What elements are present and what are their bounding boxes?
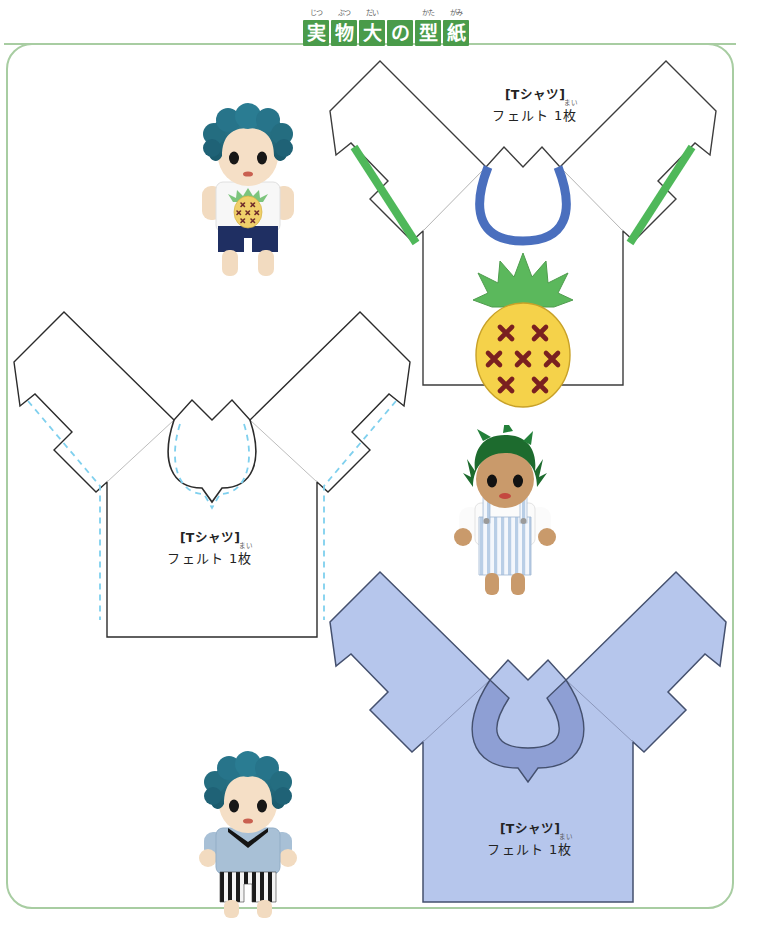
doll2-leg-right: [511, 573, 525, 595]
doll3-leg-right: [257, 900, 272, 918]
title-char-2: だい 大: [359, 20, 385, 46]
title-char-1: ぶつ 物: [331, 20, 357, 46]
doll1-curl-g: [275, 139, 293, 157]
doll2-overalls-body: [479, 517, 531, 575]
furigana-0: じつ: [303, 9, 329, 17]
doll3-mouth: [243, 818, 253, 823]
doll1-leg-left: [222, 250, 238, 276]
doll3-hand-right: [279, 849, 297, 867]
pattern-label-furigana-1: まい: [239, 543, 253, 550]
pattern-label-sub-1: まい フェルト 1枚: [167, 550, 252, 568]
title-rule-right: [468, 43, 736, 45]
doll3-pants: [220, 872, 276, 902]
doll2-hand-left: [454, 528, 472, 546]
doll-photo-striped-overalls: [445, 425, 565, 600]
doll-photo-blue-shirt: [188, 750, 308, 920]
pattern-label-blue: [Tシャツ] まい フェルト 1枚: [455, 820, 605, 860]
title-char-4: かた 型: [415, 20, 441, 46]
pattern-label-title-1: [Tシャツ]: [140, 529, 280, 547]
pattern-label-sub-text-2: フェルト 1枚: [487, 842, 572, 857]
title-char-glyph-2: 大: [363, 22, 382, 44]
pattern-sheet-page: じつ 実 ぶつ 物 だい 大 の かた 型 がみ 紙: [0, 0, 771, 934]
pattern-label-sub-2: まい フェルト 1枚: [487, 841, 572, 859]
title-char-glyph-5: 紙: [447, 22, 466, 44]
doll3-curl-f: [204, 787, 222, 805]
furigana-1: ぶつ: [331, 9, 357, 17]
doll2-mouth: [499, 493, 511, 499]
doll3-leg-left: [224, 900, 239, 918]
title-char-5: がみ 紙: [443, 20, 469, 46]
doll2-hand-right: [538, 528, 556, 546]
page-title-banner: じつ 実 ぶつ 物 だい 大 の かた 型 がみ 紙: [303, 20, 469, 46]
doll1-shorts: [218, 226, 278, 252]
doll1-eye-right: [257, 152, 267, 165]
furigana-4: かた: [415, 9, 441, 17]
doll2-eye-left: [487, 475, 497, 488]
doll3-shirt: [216, 828, 280, 874]
title-char-glyph-0: 実: [307, 22, 326, 44]
pattern-label-furigana-0: まい: [564, 100, 578, 107]
pattern-label-sub-text-0: フェルト 1枚: [492, 108, 577, 123]
pattern-label-sub-text-1: フェルト 1枚: [167, 551, 252, 566]
doll1-leg-right: [258, 250, 274, 276]
doll2-buckle-left: [484, 518, 490, 524]
doll3-hand-left: [199, 849, 217, 867]
doll1-eye-left: [229, 152, 239, 165]
doll2-eye-right: [513, 475, 523, 488]
pattern-label-pineapple: [Tシャツ] まい フェルト 1枚: [470, 86, 600, 126]
furigana-2: だい: [359, 9, 385, 17]
furigana-5: がみ: [443, 9, 469, 17]
doll3-eye-right: [257, 800, 267, 813]
doll-photo-pineapple-tee: [188, 100, 308, 280]
title-char-glyph-1: 物: [335, 22, 354, 44]
doll2-buckle-right: [521, 518, 527, 524]
pattern-label-dashed: [Tシャツ] まい フェルト 1枚: [140, 529, 280, 569]
title-char-glyph-4: 型: [419, 22, 438, 44]
pattern-label-sub-0: まい フェルト 1枚: [492, 107, 577, 125]
title-char-3: の: [387, 20, 413, 46]
doll1-curl-f: [203, 139, 221, 157]
title-rule-left: [4, 43, 304, 45]
doll3-curl-g: [274, 787, 292, 805]
pattern-label-title-2: [Tシャツ]: [455, 820, 605, 838]
doll3-eye-left: [229, 800, 239, 813]
pattern-label-furigana-2: まい: [559, 834, 573, 841]
pattern-label-title-0: [Tシャツ]: [470, 86, 600, 104]
doll1-mouth: [243, 171, 253, 176]
title-char-glyph-3: の: [391, 22, 410, 44]
doll2-leg-left: [485, 573, 499, 595]
title-char-0: じつ 実: [303, 20, 329, 46]
